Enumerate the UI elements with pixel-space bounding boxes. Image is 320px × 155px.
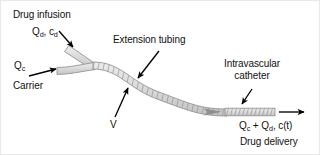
intravascular-catheter — [225, 106, 275, 118]
arrow-down-left-icon — [242, 89, 252, 104]
delivery-q2-subscript: d — [269, 124, 273, 133]
qc-symbol: Q — [14, 60, 22, 71]
delivery-plus: + Q — [250, 120, 269, 131]
tubing-assembly — [57, 46, 275, 123]
label-carrier-flow: Qc — [14, 60, 25, 72]
catheter-line-2: catheter — [211, 70, 293, 82]
label-intravascular-catheter: Intravascular catheter — [211, 58, 293, 82]
delivery-concentration: , c(t) — [273, 120, 292, 131]
qd-separator: , c — [44, 26, 54, 37]
label-drug-infusion: Drug infusion — [13, 9, 71, 21]
delivery-q1-subscript: c — [247, 124, 251, 133]
qc-subscript: c — [22, 64, 26, 73]
label-junction-volume: V — [110, 119, 117, 131]
arrow-down-left-icon — [138, 51, 159, 78]
delivery-q1: Q — [239, 120, 247, 131]
arrow-down-right-icon — [59, 31, 73, 47]
label-carrier: Carrier — [13, 80, 43, 92]
carrier-tube — [57, 63, 95, 75]
label-delivery-equation: Qc + Qd, c(t) — [239, 120, 292, 132]
label-drug-infusion-flow: Qd, cd — [32, 26, 58, 38]
arrow-up-right-icon — [115, 88, 128, 117]
label-drug-delivery: Drug delivery — [240, 136, 298, 148]
label-extension-tubing: Extension tubing — [113, 34, 185, 46]
catheter-line-1: Intravascular — [211, 58, 293, 70]
figure-canvas: Drug infusion Qd, cd Qc Carrier Extensio… — [0, 0, 320, 155]
arrow-right-icon — [29, 69, 56, 76]
cd-subscript: d — [54, 30, 58, 39]
qd-subscript: d — [40, 30, 44, 39]
qd-symbol: Q — [32, 26, 40, 37]
